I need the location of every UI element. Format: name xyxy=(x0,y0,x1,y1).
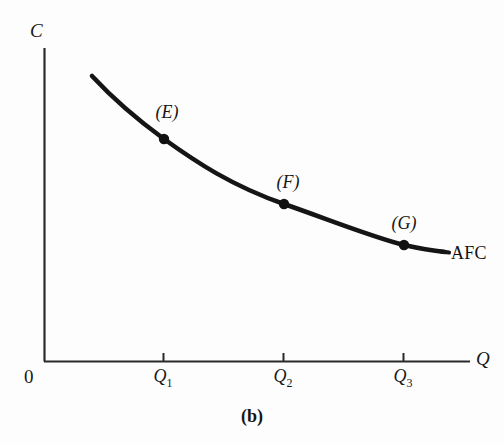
tick-label-q2-base: Q xyxy=(274,366,287,386)
point-label-f: (F) xyxy=(277,172,300,193)
tick-label-q1-subscript: 1 xyxy=(167,376,173,390)
figure-caption: (b) xyxy=(0,406,504,427)
afc-curve-label: AFC xyxy=(451,243,487,264)
plot-area xyxy=(0,0,504,443)
y-axis-label: C xyxy=(30,20,43,42)
data-point-e xyxy=(159,134,169,144)
tick-label-q3-subscript: 3 xyxy=(407,376,413,390)
point-label-e: (E) xyxy=(156,102,179,123)
origin-label: 0 xyxy=(24,366,34,388)
x-axis-label: Q xyxy=(476,348,490,370)
tick-label-q2-subscript: 2 xyxy=(287,376,293,390)
tick-label-q2: Q2 xyxy=(274,366,293,391)
point-label-g: (G) xyxy=(392,213,417,234)
tick-label-q1: Q1 xyxy=(154,366,173,391)
afc-label-leader xyxy=(441,252,449,253)
data-point-g xyxy=(399,240,409,250)
tick-label-q3: Q3 xyxy=(394,366,413,391)
tick-label-q1-base: Q xyxy=(154,366,167,386)
data-point-f xyxy=(279,199,289,209)
afc-cost-curve-figure: C Q 0 Q1 Q2 Q3 (E) (F) (G) AFC (b) xyxy=(0,0,504,443)
tick-label-q3-base: Q xyxy=(394,366,407,386)
